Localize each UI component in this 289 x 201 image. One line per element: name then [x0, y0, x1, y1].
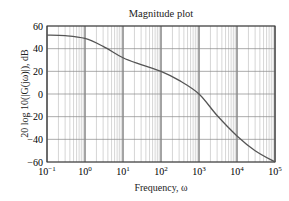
y-tick-label: −20: [27, 111, 43, 122]
x-tick-label: 101: [116, 165, 130, 177]
x-tick-label: 103: [192, 165, 206, 177]
x-tick-label: 105: [268, 165, 282, 177]
x-tick-label: 100: [78, 165, 92, 177]
magnitude-plot: 6040200−20−40−6010−1100101102103104105: [0, 0, 289, 201]
y-tick-label: −40: [27, 134, 43, 145]
y-tick-label: 20: [33, 66, 43, 77]
x-tick-label: 10−1: [38, 165, 56, 177]
y-tick-label: 0: [38, 89, 43, 100]
y-tick-label: 60: [33, 21, 43, 32]
x-tick-label: 104: [230, 165, 244, 177]
y-tick-label: 40: [33, 43, 43, 54]
x-tick-label: 102: [154, 165, 168, 177]
